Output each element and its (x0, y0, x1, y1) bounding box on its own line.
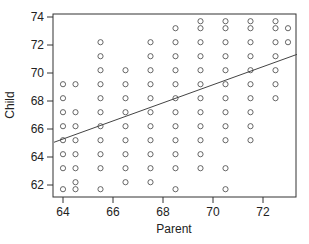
data-point (198, 96, 203, 101)
data-point (273, 19, 278, 24)
data-point (173, 124, 178, 129)
data-point (60, 110, 65, 115)
data-point (223, 96, 228, 101)
data-point (123, 152, 128, 157)
data-point (223, 82, 228, 87)
data-point (248, 124, 253, 129)
data-point (73, 166, 78, 171)
data-point (123, 180, 128, 185)
data-point (198, 19, 203, 24)
data-point (173, 166, 178, 171)
data-point (73, 110, 78, 115)
data-point (73, 152, 78, 157)
data-point (98, 110, 103, 115)
data-point (248, 54, 253, 59)
data-point (73, 82, 78, 87)
data-point (173, 110, 178, 115)
data-point (248, 19, 253, 24)
data-point (148, 124, 153, 129)
data-point (223, 54, 228, 59)
data-point (123, 96, 128, 101)
data-point (198, 40, 203, 45)
y-tick-label: 74 (31, 10, 45, 24)
data-point (173, 54, 178, 59)
data-point (273, 40, 278, 45)
data-point (148, 40, 153, 45)
data-point (73, 187, 78, 192)
data-point (248, 40, 253, 45)
data-point (148, 82, 153, 87)
data-point (98, 82, 103, 87)
data-point (285, 26, 290, 31)
y-tick-label: 72 (31, 38, 45, 52)
plot-frame (53, 14, 296, 197)
data-point (198, 152, 203, 157)
data-point (223, 68, 228, 73)
data-point (123, 110, 128, 115)
data-point (123, 124, 128, 129)
data-point (248, 138, 253, 143)
data-point (273, 26, 278, 31)
data-point (223, 110, 228, 115)
data-point (60, 187, 65, 192)
data-point (223, 40, 228, 45)
data-points (60, 19, 290, 192)
y-axis: 62646668707274 (31, 10, 53, 192)
data-point (148, 152, 153, 157)
data-point (223, 124, 228, 129)
data-point (123, 138, 128, 143)
data-point (248, 82, 253, 87)
data-point (98, 96, 103, 101)
data-point (98, 166, 103, 171)
data-point (285, 40, 290, 45)
data-point (60, 96, 65, 101)
y-tick-label: 66 (31, 122, 45, 136)
data-point (248, 96, 253, 101)
data-point (198, 54, 203, 59)
data-point (223, 187, 228, 192)
data-point (148, 138, 153, 143)
data-point (173, 187, 178, 192)
data-point (173, 138, 178, 143)
data-point (123, 82, 128, 87)
data-point (173, 68, 178, 73)
data-point (73, 180, 78, 185)
data-point (198, 26, 203, 31)
data-point (98, 68, 103, 73)
data-point (198, 138, 203, 143)
x-tick-label: 66 (106, 205, 120, 219)
data-point (60, 124, 65, 129)
x-tick-label: 70 (206, 205, 220, 219)
y-tick-label: 64 (31, 150, 45, 164)
data-point (273, 68, 278, 73)
data-point (273, 96, 278, 101)
data-point (148, 180, 153, 185)
data-point (148, 110, 153, 115)
data-point (248, 26, 253, 31)
data-point (73, 124, 78, 129)
data-point (148, 54, 153, 59)
x-tick-label: 64 (56, 205, 70, 219)
data-point (198, 82, 203, 87)
scatter-chart: 62646668707274 6466687072 Parent Child (0, 0, 309, 244)
data-point (273, 82, 278, 87)
data-point (223, 19, 228, 24)
y-tick-label: 70 (31, 66, 45, 80)
data-point (148, 68, 153, 73)
data-point (223, 138, 228, 143)
data-point (60, 82, 65, 87)
data-point (223, 166, 228, 171)
y-axis-title: Child (3, 91, 17, 118)
y-tick-label: 68 (31, 94, 45, 108)
x-axis: 6466687072 (56, 197, 270, 219)
data-point (198, 110, 203, 115)
data-point (198, 68, 203, 73)
data-point (173, 26, 178, 31)
data-point (148, 96, 153, 101)
data-point (273, 54, 278, 59)
y-tick-label: 62 (31, 178, 45, 192)
data-point (98, 152, 103, 157)
data-point (198, 124, 203, 129)
data-point (148, 166, 153, 171)
data-point (198, 166, 203, 171)
